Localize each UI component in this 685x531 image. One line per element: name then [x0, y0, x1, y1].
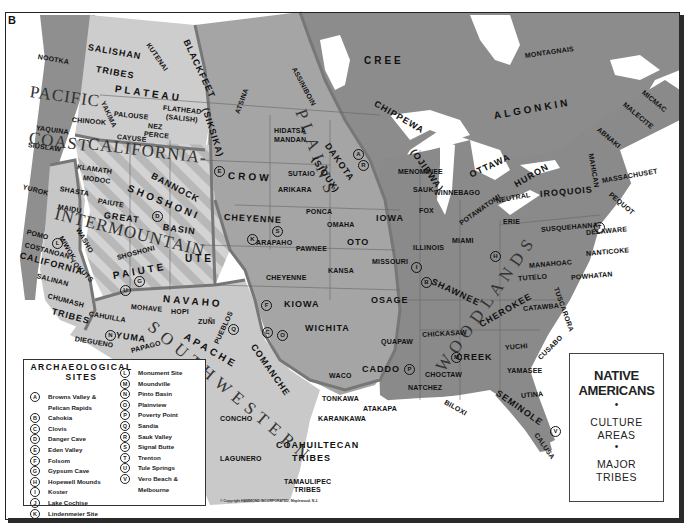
tribe-label: KARANKAWA [318, 415, 366, 422]
site-name: Sandia [138, 421, 158, 430]
tribe-label: ZUÑI [198, 318, 215, 325]
site-key-circle: F [30, 456, 40, 466]
site-key-circle: C [30, 424, 40, 434]
site-marker-l: L [52, 238, 63, 249]
tribe-label: OSAGE [371, 295, 409, 305]
tribe-label: CROW [228, 170, 272, 183]
bullet-separator: • [570, 442, 663, 452]
tribe-label: KIOWA [284, 299, 320, 309]
site-key-circle: U [120, 463, 130, 473]
tribe-label: OTO [347, 237, 369, 247]
site-marker-v: V [550, 426, 561, 437]
site-marker-g: G [134, 276, 145, 287]
legend-row: SSignal Butte [120, 442, 182, 453]
subtitle2-line1: MAJOR [570, 458, 663, 471]
legend-row: OPlainview [120, 400, 182, 411]
site-key-circle: E [30, 445, 40, 455]
site-marker-m: M [451, 352, 462, 363]
site-key-circle: M [120, 379, 130, 389]
tribe-label: LAGUNERO [220, 455, 262, 462]
legend-row: KLindenmeier Site [30, 509, 101, 520]
site-marker-u: U [120, 285, 131, 296]
tribe-label: WINNEBAGO [434, 189, 480, 196]
tribe-label: TAMAULIPEC [284, 478, 331, 485]
site-marker-o: O [277, 330, 288, 341]
site-name: Sauk Valley [138, 432, 172, 441]
tribe-label: YAMASEE [507, 367, 542, 374]
site-name: Eden Valley [48, 445, 82, 454]
site-key-circle: T [120, 453, 130, 463]
tribe-label: IOWA [376, 213, 404, 223]
site-name: Lindenmeier Site [48, 509, 98, 518]
tribe-label: MIAMI [452, 237, 474, 244]
legend-column-right: LMonument SiteMMoundvilleNPinto BasinOPl… [120, 368, 182, 495]
site-name: Plainview [138, 400, 166, 409]
site-key-circle: R [120, 432, 130, 442]
legend-row: QSandia [120, 421, 182, 432]
tribe-label: CONCHO [220, 415, 252, 422]
site-marker-h: H [490, 251, 501, 262]
site-name: Moundville [138, 379, 170, 388]
tribe-label: UTE [185, 253, 214, 264]
site-marker-e: E [214, 166, 225, 177]
tribe-label: MENOMINEE [398, 168, 443, 175]
site-name: Pinto Basin [138, 389, 172, 398]
site-key-circle: V [120, 474, 130, 484]
tribe-label: MISSOURI [372, 258, 408, 265]
legend-row: EEden Valley [30, 445, 101, 456]
site-marker-r: R [358, 160, 369, 171]
frame-shadow-bottom [8, 518, 683, 523]
tribe-label: TONKAWA [322, 395, 359, 402]
site-marker-a: A [353, 149, 364, 160]
site-key-circle: S [120, 442, 130, 452]
site-name: Poverty Point [138, 410, 178, 419]
site-name: Vero Beach & [138, 474, 178, 483]
native-americans-map: B PACIFICCOASTCALIFORNIA-INTERMOUNTAINP … [0, 0, 685, 531]
legend-row: PPoverty Point [120, 410, 182, 421]
site-name: Browns Valley & [48, 392, 96, 401]
subtitle1-line1: CULTURE [570, 416, 663, 429]
site-name: Hopewell Mounds [48, 477, 101, 486]
frame-shadow-right [679, 15, 684, 523]
legend-row: TTrenton [120, 453, 182, 464]
tribe-label: CADDO [362, 364, 400, 374]
tribe-label: MANDAN [274, 136, 306, 143]
site-name: Cahokia [48, 413, 72, 422]
title-line1: NATIVE [570, 368, 663, 383]
legend-row: JLake Cochise [30, 498, 101, 509]
site-name: Signal Butte [138, 442, 174, 451]
tribe-label: HOPI [171, 308, 189, 315]
tribe-label: KANSA [328, 267, 354, 274]
legend-row: UTule Springs [120, 463, 182, 474]
site-key-circle: P [120, 410, 130, 420]
tribe-label: ATAKAPA [363, 405, 397, 412]
tribe-label: SAUK [413, 186, 434, 193]
site-name: Gypsum Cave [48, 466, 89, 475]
legend-row: HHopewell Mounds [30, 477, 101, 488]
legend-row: VVero Beach & [120, 474, 182, 485]
tribe-label: ERIE [503, 218, 520, 225]
tribe-label: NATCHEZ [408, 384, 442, 391]
legend-row: CClovis [30, 424, 101, 435]
tribe-label: PAWNEE [296, 245, 327, 252]
legend-row: FFolsom [30, 456, 101, 467]
tribe-label: CHOCTAW [425, 371, 462, 378]
site-name-line2: Melbourne [138, 485, 169, 494]
tribe-label: CREE [364, 55, 404, 66]
site-key-circle: G [30, 466, 40, 476]
title-main: NATIVE AMERICANS [570, 368, 663, 398]
site-name: Tule Springs [138, 463, 175, 472]
legend-row: MMoundville [120, 379, 182, 390]
site-marker-c: C [262, 327, 273, 338]
site-marker-p: P [404, 364, 415, 375]
site-key-circle: H [30, 477, 40, 487]
site-key-circle: D [30, 434, 40, 444]
tribe-label: OMAHA [327, 221, 354, 228]
site-key-circle: J [30, 498, 40, 508]
site-key-circle: K [30, 509, 40, 519]
site-name: Trenton [138, 453, 161, 462]
title-line2: AMERICANS [570, 383, 663, 398]
tribe-label: TRIBES [292, 453, 331, 463]
bullet-separator: • [570, 400, 663, 410]
site-name: Folsom [48, 456, 70, 465]
